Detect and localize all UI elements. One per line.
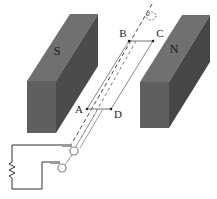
brush-2 [50,161,60,164]
corner-d-dot [110,108,113,111]
south-magnet-front-face [27,81,56,133]
circuit-wire-top [12,145,62,162]
north-pole-label: N [170,42,179,56]
corner-c-dot [152,40,155,43]
north-magnet: N [140,15,210,128]
generator-diagram: S N A B C D [0,0,217,199]
slip-ring-1 [70,147,78,155]
corner-b-label: B [119,27,126,39]
corner-d-label: D [114,108,122,120]
slip-ring-2 [58,164,66,172]
north-magnet-front-face [140,82,169,128]
coil-lead-3 [65,155,72,165]
brush-1 [62,144,72,147]
corner-c-label: C [156,27,163,39]
south-magnet: S [27,14,98,133]
rotation-arrow-icon [146,12,156,20]
circuit-wire-bottom [12,162,50,189]
corner-a-dot [86,108,89,111]
external-circuit [9,145,62,189]
corner-a-label: A [75,103,83,115]
corner-b-dot [128,40,131,43]
south-pole-label: S [54,44,61,58]
resistor-icon [9,162,15,178]
coil-lead-2 [80,109,103,148]
